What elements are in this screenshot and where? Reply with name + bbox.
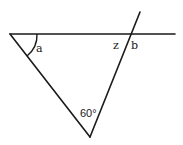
geometry-diagram: a z b 60°	[0, 0, 183, 145]
triangle-left-side	[10, 34, 90, 137]
angle-b-label: b	[131, 39, 138, 52]
angle-z-label: z	[113, 39, 119, 52]
angle-60-label: 60°	[80, 107, 97, 119]
angle-a-label: a	[36, 42, 43, 55]
transversal-line	[90, 12, 140, 137]
